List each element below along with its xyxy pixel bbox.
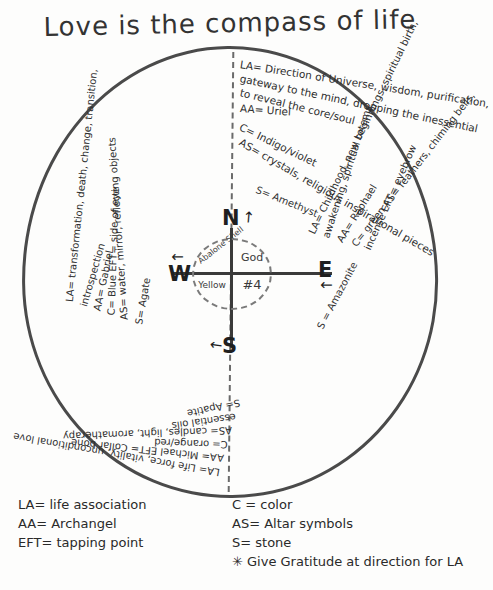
legend-left-row: AA= Archangel — [18, 515, 146, 534]
legend-right-row: S= stone — [232, 534, 463, 553]
legend-left: LA= life association AA= Archangel EFT= … — [18, 496, 146, 553]
arrow-east-icon: ↓ — [317, 279, 335, 292]
legend-left-row: LA= life association — [18, 496, 146, 515]
cardinal-label-west: W — [168, 262, 191, 286]
arrow-west-icon: ↑ — [169, 251, 187, 264]
legend-right-row: ✳ Give Gratitude at direction for LA — [232, 553, 463, 572]
compass-inner-circle — [192, 238, 272, 310]
cardinal-label-south: S — [222, 334, 237, 358]
legend-left-row: EFT= tapping point — [18, 534, 146, 553]
center-cell-god: God — [236, 252, 268, 263]
legend-right-row: C = color — [232, 496, 463, 515]
center-cell-number-four: #4 — [236, 278, 268, 291]
cardinal-label-north: N — [222, 206, 240, 230]
legend-right: C = color AS= Altar symbols S= stone ✳ G… — [232, 496, 463, 571]
arrow-south-icon: ← — [209, 335, 224, 355]
center-cell-yellow: Yellow — [194, 281, 230, 290]
legend-right-row: AS= Altar symbols — [232, 515, 463, 534]
